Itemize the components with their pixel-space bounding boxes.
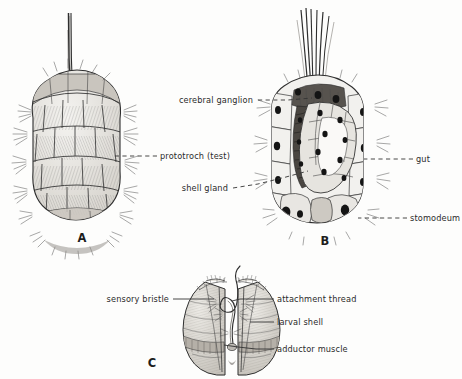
panel-b-drawing (254, 8, 390, 245)
label-adductor-muscle: adductor muscle (277, 344, 348, 354)
label-gut: gut (416, 154, 431, 164)
illustration-canvas: cerebral ganglion prototroch (test) shel… (0, 0, 462, 379)
figure-plate: cerebral ganglion prototroch (test) shel… (0, 0, 462, 379)
internal-anatomy-b (266, 84, 374, 227)
panel-letter-b: B (321, 234, 330, 248)
panel-letter-c: C (148, 356, 156, 370)
label-stomodeum: stomodeum (410, 213, 460, 223)
panel-letter-a: A (78, 231, 87, 245)
panel-a-drawing (12, 13, 139, 259)
label-sensory-bristle: sensory bristle (107, 294, 169, 304)
label-larval-shell: larval shell (277, 317, 323, 327)
label-shell-gland: shell gland (182, 183, 228, 193)
label-attachment-thread: attachment thread (277, 294, 357, 304)
label-cerebral-ganglion: cerebral ganglion (179, 95, 253, 105)
label-prototroch-test: prototroch (test) (160, 151, 230, 161)
